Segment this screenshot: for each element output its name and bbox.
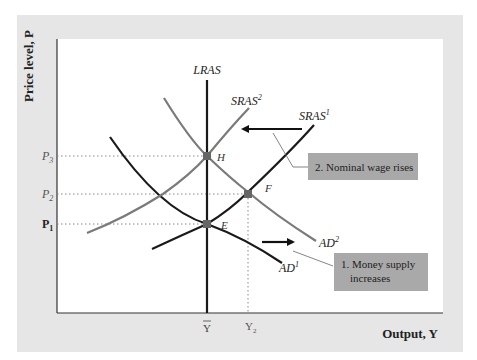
sras2-label: SRAS2 xyxy=(231,93,262,108)
point-e-label: E xyxy=(220,219,228,231)
money-supply-text-1: 1. Money supply xyxy=(341,258,416,270)
point-f xyxy=(244,190,252,198)
money-supply-text-2: increases xyxy=(350,272,390,284)
x-axis-label: Output, Y xyxy=(382,326,438,341)
point-e xyxy=(203,220,211,228)
lras-label: LRAS xyxy=(192,63,220,77)
nominal-wage-text: 2. Nominal wage rises xyxy=(315,161,413,173)
sras1-label: SRAS1 xyxy=(299,108,330,123)
point-h-label: H xyxy=(216,151,226,163)
ybar-label: Y xyxy=(203,322,211,334)
y-axis-label: Price level, P xyxy=(21,30,36,102)
ad-as-diagram: Price level, P Output, Y LRAS SRAS2 SRAS… xyxy=(0,0,477,360)
point-f-label: F xyxy=(264,182,272,194)
point-h xyxy=(203,152,211,160)
